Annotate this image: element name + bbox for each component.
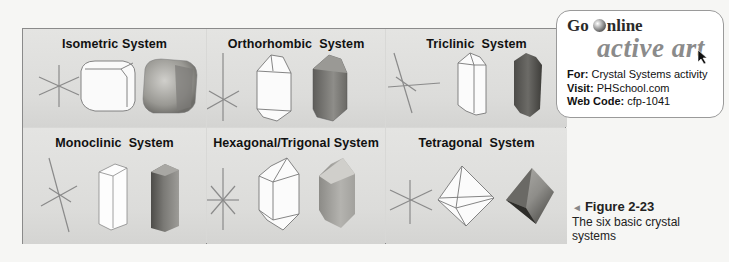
visit-link: PHSchool.com bbox=[597, 82, 670, 94]
caption-text: The six basic crystal systems bbox=[572, 215, 722, 243]
globe-icon bbox=[593, 19, 606, 32]
figure-caption: ◄Figure 2-23 The six basic crystal syste… bbox=[572, 200, 722, 243]
tetragonal-crystal-illustration bbox=[386, 128, 567, 244]
figure-label: Figure 2-23 bbox=[585, 199, 654, 214]
monoclinic-crystal-illustration bbox=[23, 128, 206, 244]
panel-hexagonal-trigonal: Hexagonal/Trigonal System bbox=[207, 128, 385, 244]
isometric-crystal-illustration bbox=[23, 29, 206, 127]
for-line: For: Crystal Systems activity bbox=[567, 68, 713, 82]
panel-monoclinic: Monoclinic System bbox=[23, 128, 206, 244]
crystal-systems-figure: Isometric System bbox=[22, 28, 566, 244]
mouse-cursor-icon bbox=[697, 49, 709, 65]
panel-orthorhombic: Orthorhombic System bbox=[207, 29, 385, 127]
panel-triclinic: Triclinic System bbox=[386, 29, 567, 127]
visit-line[interactable]: Visit: PHSchool.com bbox=[567, 82, 713, 96]
hexagonal-trigonal-crystal-illustration bbox=[207, 128, 385, 244]
go-online-callout: Gonline active art For: Crystal Systems … bbox=[556, 10, 724, 118]
active-art-logo[interactable]: active art bbox=[597, 35, 713, 61]
left-arrow-icon: ◄ bbox=[572, 202, 582, 213]
go-online-info: For: Crystal Systems activity Visit: PHS… bbox=[567, 68, 713, 109]
web-code-line: Web Code: cfp-1041 bbox=[567, 95, 713, 109]
panel-isometric: Isometric System bbox=[23, 29, 206, 127]
triclinic-crystal-illustration bbox=[386, 29, 567, 127]
panel-tetragonal: Tetragonal System bbox=[386, 128, 567, 244]
orthorhombic-crystal-illustration bbox=[207, 29, 385, 127]
